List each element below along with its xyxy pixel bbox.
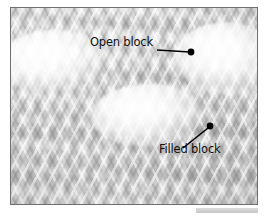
open-block-label: Open block — [90, 36, 153, 49]
screenshot-stage: Open block Filled block — [0, 0, 266, 220]
filled-block-label: Filled block — [159, 143, 221, 156]
bottom-grey-bar — [196, 208, 258, 213]
filled-block-marker-dot — [207, 123, 214, 130]
open-block-marker-dot — [188, 49, 195, 56]
open-block-leader-line — [157, 50, 190, 52]
